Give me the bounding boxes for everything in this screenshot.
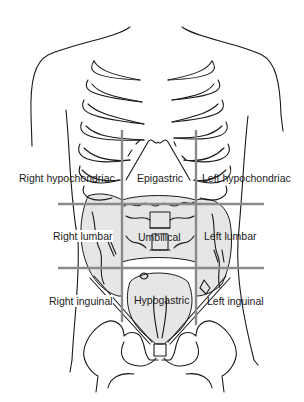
label-right-inguinal: Right inguinal [49, 295, 113, 307]
label-epigastric: Epigastric [137, 172, 183, 184]
label-hypogastric: Hypogastric [134, 294, 189, 306]
label-umbilical: Umbilical [138, 231, 181, 243]
label-right-lumbar: Right lumbar [53, 230, 113, 242]
abdominal-regions-diagram: Right hypochondriac Epigastric Left hypo… [0, 0, 304, 402]
region-grid [0, 0, 304, 402]
label-left-lumbar: Left lumbar [204, 230, 257, 242]
label-left-inguinal: Left inguinal [207, 295, 264, 307]
label-left-hypochondriac: Left hypochondriac [202, 172, 291, 184]
label-right-hypochondriac: Right hypochondriac [19, 172, 115, 184]
